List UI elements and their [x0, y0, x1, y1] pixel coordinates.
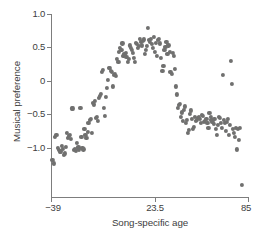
data-point	[177, 103, 181, 107]
data-point	[188, 112, 192, 116]
data-point	[214, 133, 218, 137]
data-point	[113, 72, 117, 76]
data-point	[141, 39, 145, 43]
data-point	[227, 133, 231, 137]
data-point	[121, 53, 125, 57]
data-point	[211, 122, 215, 126]
y-tick-5	[47, 148, 51, 149]
data-point	[55, 146, 59, 150]
x-axis-title: Song-specific age	[51, 217, 249, 228]
x-axis-line	[51, 197, 249, 198]
data-point	[203, 118, 207, 122]
data-point	[109, 69, 113, 73]
data-point	[64, 145, 68, 149]
data-point	[58, 149, 62, 153]
data-point	[94, 116, 98, 120]
data-point	[192, 124, 196, 128]
data-point	[197, 115, 201, 119]
data-point	[72, 148, 76, 152]
data-point	[167, 49, 171, 53]
data-point	[186, 131, 190, 135]
data-point	[104, 95, 108, 99]
data-point	[53, 135, 57, 139]
y-ticklabel-1: 1.0	[32, 9, 45, 19]
data-point	[57, 148, 61, 152]
y-ticklabel-4: −0.5	[27, 109, 45, 119]
data-point	[92, 102, 96, 106]
data-point	[204, 116, 208, 120]
data-point	[207, 111, 211, 115]
y-tick-4	[47, 114, 51, 115]
data-point	[235, 147, 239, 151]
data-point	[183, 104, 187, 108]
data-point	[106, 78, 110, 82]
data-point	[85, 130, 89, 134]
data-point	[81, 147, 85, 151]
data-point	[68, 133, 72, 137]
data-point	[190, 116, 194, 120]
y-tick-3	[47, 81, 51, 82]
data-point	[169, 72, 173, 76]
data-point	[115, 57, 119, 61]
x-ticklabel-3: 85	[241, 203, 251, 213]
data-point	[97, 96, 101, 100]
data-point	[74, 149, 78, 153]
data-point	[117, 49, 121, 53]
data-point	[147, 38, 151, 42]
data-point	[155, 54, 159, 58]
data-point	[217, 115, 221, 119]
data-point	[86, 120, 90, 124]
y-ticklabel-2: 0.5	[32, 42, 45, 52]
data-point	[200, 112, 204, 116]
data-point	[160, 69, 164, 73]
data-point	[238, 126, 242, 130]
data-point	[57, 150, 61, 154]
data-point	[131, 51, 135, 55]
data-point	[137, 44, 141, 48]
data-point	[165, 52, 169, 56]
data-point	[181, 119, 185, 123]
data-point	[139, 40, 143, 44]
data-point	[70, 106, 74, 110]
data-point	[157, 37, 161, 41]
data-point	[149, 37, 153, 41]
data-point	[175, 92, 179, 96]
data-point	[210, 120, 214, 124]
data-point	[168, 70, 172, 74]
data-point	[193, 114, 197, 118]
data-point	[62, 153, 66, 157]
data-point	[69, 137, 73, 141]
data-point	[205, 121, 209, 125]
data-point	[170, 51, 174, 55]
data-point	[133, 59, 137, 63]
data-point	[223, 121, 227, 125]
data-point	[66, 136, 70, 140]
data-point	[236, 126, 240, 130]
data-point	[164, 40, 168, 44]
data-point	[209, 118, 213, 122]
y-tick-1	[47, 14, 51, 15]
data-point	[71, 106, 75, 110]
data-point	[206, 126, 210, 130]
data-point	[83, 133, 87, 137]
data-point	[196, 116, 200, 120]
data-point	[146, 26, 150, 30]
data-point	[75, 141, 79, 145]
data-point	[145, 44, 149, 48]
data-point	[116, 60, 120, 64]
data-point	[184, 120, 188, 124]
data-point	[231, 127, 235, 131]
y-ticklabel-3: 0	[40, 76, 45, 86]
data-point	[128, 43, 132, 47]
data-point	[202, 120, 206, 124]
data-point	[134, 41, 138, 45]
data-point	[176, 106, 180, 110]
data-point	[61, 147, 65, 151]
data-point	[187, 128, 191, 132]
data-point	[132, 56, 136, 60]
data-point	[119, 47, 123, 51]
data-point	[96, 119, 100, 123]
data-point	[108, 66, 112, 70]
data-point	[101, 68, 105, 72]
data-point	[237, 138, 241, 142]
